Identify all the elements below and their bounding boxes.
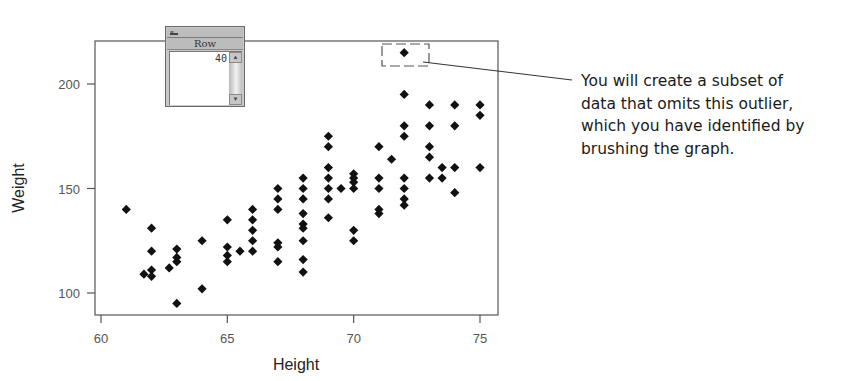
plot-frame [95, 41, 498, 315]
x-tick-label: 65 [220, 331, 234, 346]
row-list[interactable]: 40 [169, 51, 230, 105]
system-menu-icon[interactable]: = [170, 29, 178, 35]
y-axis: 100150200 [58, 77, 95, 301]
callout-annotation: You will create a subset of data that om… [581, 70, 851, 160]
row-window-titlebar[interactable]: = [167, 28, 243, 38]
row-list-scrollbar[interactable]: ▲ ▼ [229, 51, 242, 105]
row-list-item[interactable]: 40 [215, 53, 227, 64]
y-axis-title: Weight [10, 163, 27, 213]
x-axis-title: Height [273, 356, 320, 373]
x-tick-label: 75 [473, 331, 487, 346]
scroll-down-icon[interactable]: ▼ [229, 94, 242, 105]
callout-line: brushing the graph. [581, 138, 851, 161]
x-axis: 60657075 [94, 315, 487, 346]
scroll-up-icon[interactable]: ▲ [229, 52, 242, 63]
y-tick-label: 100 [58, 286, 80, 301]
y-tick-label: 150 [58, 182, 80, 197]
row-window[interactable]: = Row 40 ▲ ▼ [165, 26, 245, 107]
x-tick-label: 70 [346, 331, 360, 346]
callout-line: which you have identified by [581, 115, 851, 138]
callout-line: You will create a subset of [581, 70, 851, 93]
callout-line: data that omits this outlier, [581, 93, 851, 116]
y-tick-label: 200 [58, 77, 80, 92]
row-window-caption: Row [167, 38, 243, 50]
x-tick-label: 60 [94, 331, 108, 346]
scatter-plot: 60657075 100150200 Height Weight [0, 0, 851, 381]
